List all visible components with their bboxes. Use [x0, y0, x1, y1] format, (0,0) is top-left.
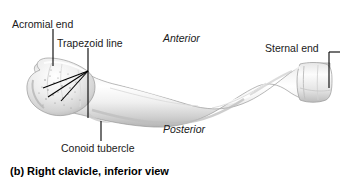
label-posterior: Posterior [163, 124, 205, 135]
label-acromial-end: Acromial end [12, 19, 73, 30]
figure-caption: (b) Right clavicle, inferior view [10, 166, 169, 177]
label-sternal-end: Sternal end [265, 43, 319, 54]
label-conoid-tubercle: Conoid tubercle [61, 143, 135, 154]
label-trapezoid-line: Trapezoid line [57, 38, 123, 49]
anatomical-figure-clavicle: Acromial end Trapezoid line Conoid tuber… [0, 0, 348, 185]
label-anterior: Anterior [163, 33, 200, 44]
